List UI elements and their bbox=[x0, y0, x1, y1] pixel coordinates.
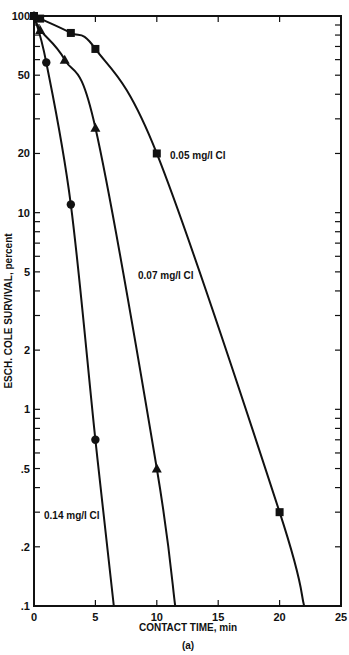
square-marker bbox=[67, 29, 75, 37]
y-tick-label: 50 bbox=[18, 69, 30, 81]
circle-marker bbox=[67, 200, 75, 208]
y-axis-title: ESCH. COLE SURVIVAL, percent bbox=[3, 233, 14, 389]
x-tick-label: 20 bbox=[273, 611, 285, 623]
circle-marker bbox=[91, 436, 99, 444]
curve-label: 0.05 mg/l Cl bbox=[170, 150, 226, 161]
square-marker bbox=[153, 149, 161, 157]
y-tick-label: 1 bbox=[24, 403, 30, 415]
y-tick-label: .5 bbox=[21, 463, 30, 475]
triangle-marker bbox=[152, 464, 162, 473]
y-tick-label: .1 bbox=[21, 600, 30, 612]
x-tick-label: 0 bbox=[31, 611, 37, 623]
curve-label: 0.14 mg/l Cl bbox=[44, 510, 100, 521]
circle-marker bbox=[42, 58, 50, 66]
y-tick-labels: 100502010521.5.2.1 bbox=[12, 10, 30, 612]
y-tick-label: 100 bbox=[12, 10, 30, 22]
y-tick-label: .2 bbox=[21, 541, 30, 553]
data-markers bbox=[29, 11, 284, 516]
y-tick-label: 2 bbox=[24, 344, 30, 356]
curve-label: 0.07 mg/l Cl bbox=[138, 270, 194, 281]
circle-marker bbox=[30, 12, 38, 20]
square-marker bbox=[276, 508, 284, 516]
y-tick-label: 10 bbox=[18, 207, 30, 219]
y-tick-label: 5 bbox=[24, 266, 30, 278]
y-tick-label: 20 bbox=[18, 147, 30, 159]
x-axis-title: CONTACT TIME, min bbox=[139, 622, 237, 633]
x-tick-label: 25 bbox=[335, 611, 347, 623]
triangle-marker bbox=[60, 55, 70, 64]
survival-chart: 100502010521.5.2.1 0510152025 0.05 mg/l … bbox=[0, 0, 349, 655]
triangle-marker bbox=[90, 123, 100, 132]
figure-caption: (a) bbox=[182, 640, 194, 651]
x-tick-label: 5 bbox=[92, 611, 98, 623]
square-marker bbox=[91, 45, 99, 53]
